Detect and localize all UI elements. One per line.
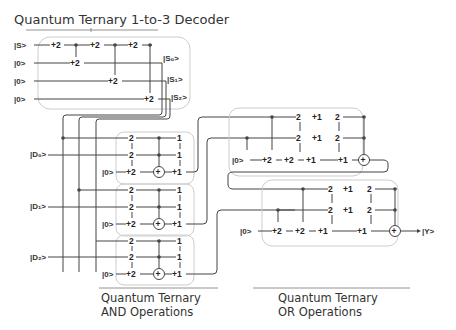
- and-ancilla-2: |0>: [102, 270, 114, 279]
- and1-c1-r1: 2: [129, 202, 134, 212]
- or-caption-line1: Quantum Ternary: [278, 291, 378, 305]
- decoder-output-s0: |S₀>: [163, 54, 179, 63]
- or1-r1-g0: 2: [328, 205, 333, 215]
- or0-r0-g0: 2: [296, 112, 301, 122]
- diagram-title: Quantum Ternary 1-to-3 Decoder: [14, 12, 230, 27]
- and0-c2-r0: 1: [177, 133, 182, 143]
- svg-text:+: +: [156, 219, 161, 229]
- and-input-d0: |D₀>: [30, 150, 47, 159]
- or1-r2-g3: +1: [357, 226, 367, 236]
- decoder-gate-r0-1: +2: [51, 40, 61, 50]
- or0-r2-g1: +2: [284, 155, 294, 165]
- decoder-gate-r3: +2: [144, 94, 154, 104]
- and0-c1-r1: 2: [129, 150, 134, 160]
- and1-c1-r2: +2: [126, 219, 136, 229]
- svg-text:+: +: [392, 226, 397, 236]
- and-ancilla-1: |0>: [102, 220, 114, 229]
- or1-r2-g0: +2: [272, 226, 282, 236]
- decoder-gate-r0-3: +2: [128, 40, 138, 50]
- and1-c2-r0: 1: [177, 185, 182, 195]
- and2-c2-r1: 1: [177, 252, 182, 262]
- and2-c1-r1: 2: [129, 252, 134, 262]
- or-caption-line2: OR Operations: [278, 305, 362, 319]
- and-input-d1: |D₁>: [30, 202, 46, 211]
- or0-r1-g2: 2: [335, 133, 340, 143]
- arrow-icon: [417, 229, 421, 233]
- and-caption-line1: Quantum Ternary: [101, 291, 201, 305]
- and-ancilla-0: |0>: [102, 168, 114, 177]
- decoder-input-s: |S>: [14, 41, 27, 50]
- decoder-gate-r0-2: +2: [90, 40, 100, 50]
- and0-c2-r2: +1: [172, 167, 182, 177]
- and2-c1-r2: +2: [126, 269, 136, 279]
- or-ancilla-1: |0>: [240, 227, 252, 236]
- decoder-gate-r1: +2: [70, 58, 80, 68]
- and2-c2-r0: 1: [177, 236, 182, 246]
- or0-r0-g1: +1: [312, 112, 322, 122]
- and0-c1-r2: +2: [126, 167, 136, 177]
- or0-r2-g3: +1: [338, 155, 348, 165]
- and2-c2-r2: +1: [172, 269, 182, 279]
- decoder-input-0b: |0>: [14, 77, 26, 86]
- or0-r1-g0: 2: [296, 133, 301, 143]
- svg-text:+: +: [156, 269, 161, 279]
- svg-text:+: +: [156, 167, 161, 177]
- or1-r0-g2: 2: [367, 184, 372, 194]
- and1-c2-r1: 1: [177, 202, 182, 212]
- or1-r1-g2: 2: [367, 205, 372, 215]
- quantum-circuit-diagram: Quantum Ternary 1-to-3 Decoder |S> |0> |…: [0, 0, 456, 330]
- decoder-output-s1: |S₁>: [167, 75, 183, 84]
- or-ancilla-0: |0>: [232, 156, 244, 165]
- and-caption-line2: AND Operations: [101, 305, 193, 319]
- or1-r0-g0: 2: [328, 184, 333, 194]
- decoder-output-s2: |S₂>: [171, 93, 187, 102]
- or0-r1-g1: +1: [312, 133, 322, 143]
- or1-r0-g1: +1: [343, 184, 353, 194]
- and-input-d2: |D₂>: [30, 253, 47, 262]
- or1-r2-g1: +2: [295, 226, 305, 236]
- or0-r2-g0: +2: [262, 155, 272, 165]
- or0-r0-g2: 2: [335, 112, 340, 122]
- and2-c1-r0: 2: [129, 236, 134, 246]
- and1-c1-r0: 2: [129, 185, 134, 195]
- and1-c2-r2: +1: [172, 219, 182, 229]
- or0-r2-g2: +1: [306, 155, 316, 165]
- output-y: |Y>: [422, 227, 435, 236]
- decoder-block: [38, 37, 190, 109]
- svg-text:+: +: [361, 155, 366, 165]
- decoder-gate-r2: +2: [108, 76, 118, 86]
- or1-r1-g1: +1: [343, 205, 353, 215]
- and0-c1-r0: 2: [129, 133, 134, 143]
- decoder-input-0c: |0>: [14, 95, 26, 104]
- decoder-input-0a: |0>: [14, 59, 26, 68]
- and0-c2-r1: 1: [177, 150, 182, 160]
- or1-r2-g2: +1: [318, 226, 328, 236]
